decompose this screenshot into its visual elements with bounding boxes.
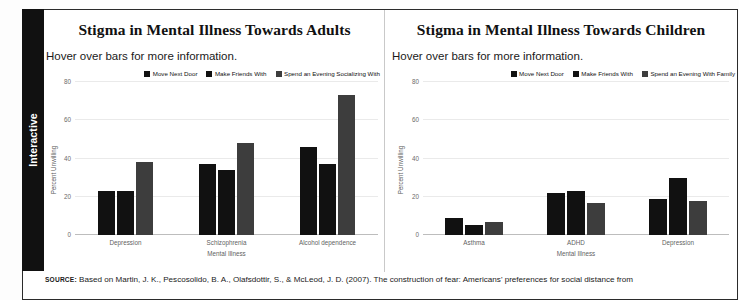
legend-children: Move Next DoorMake Friends WithSpend an …: [385, 70, 737, 77]
legend-label: Make Friends With: [581, 70, 633, 77]
page-title-adults: Stigma in Mental Illness Towards Adults: [45, 21, 384, 39]
y-axis-label-adults: Percent Unwilling: [50, 145, 57, 194]
legend-item[interactable]: Spend an Evening Socializing With: [276, 70, 380, 77]
bar-group: Asthma: [445, 82, 503, 235]
legend-swatch-icon: [144, 71, 150, 77]
legend-swatch-icon: [642, 71, 648, 77]
bar-group: Depression: [98, 82, 153, 235]
y-axis-tick: 20: [412, 192, 419, 199]
bar[interactable]: [319, 164, 336, 235]
x-axis-tick: Depression: [662, 239, 694, 246]
chart-subtitle-adults: Hover over bars for more information.: [45, 50, 384, 62]
legend-swatch-icon: [511, 71, 517, 77]
source-citation: SOURCE: Based on Martin, J. K., Pescosol…: [45, 275, 735, 285]
bar[interactable]: [669, 178, 687, 235]
x-axis-tick: Asthma: [463, 239, 484, 246]
bar[interactable]: [117, 191, 134, 235]
legend-item[interactable]: Make Friends With: [573, 70, 633, 77]
chart-subtitle-children: Hover over bars for more information.: [385, 50, 737, 62]
bar-group: Schizophrenia: [199, 82, 254, 235]
legend-item[interactable]: Spend an Evening With Family: [642, 70, 735, 77]
source-label: SOURCE:: [45, 276, 77, 283]
bar[interactable]: [338, 95, 355, 235]
plot-area-children: Percent Unwilling 020406080AsthmaADHDDep…: [385, 82, 737, 257]
bar[interactable]: [98, 191, 115, 235]
bar[interactable]: [689, 201, 707, 235]
bar-groups: DepressionSchizophreniaAlcohol dependenc…: [75, 82, 378, 235]
screenshot-root: Interactive Stigma in Mental Illness Tow…: [0, 0, 739, 300]
bar[interactable]: [199, 164, 216, 235]
source-text: Based on Martin, J. K., Pescosolido, B. …: [77, 275, 633, 284]
y-axis-tick: 80: [412, 78, 419, 85]
bar[interactable]: [587, 203, 605, 236]
legend-adults: Move Next DoorMake Friends WithSpend an …: [45, 70, 384, 77]
bar-group: Alcohol dependence: [300, 82, 355, 235]
y-axis-tick: 60: [64, 116, 71, 123]
legend-item[interactable]: Make Friends With: [206, 70, 266, 77]
y-axis-tick: 0: [67, 231, 71, 238]
x-axis-tick: Alcohol dependence: [299, 239, 356, 246]
plot-area-adults: Percent Unwilling 020406080DepressionSch…: [45, 82, 384, 257]
plot-adults: 020406080DepressionSchizophreniaAlcohol …: [75, 82, 378, 235]
bar[interactable]: [218, 170, 235, 235]
page-title-children: Stigma in Mental Illness Towards Childre…: [385, 21, 737, 39]
legend-label: Make Friends With: [215, 70, 267, 77]
plot-children: 020406080AsthmaADHDDepression: [423, 82, 729, 235]
x-axis-tick: Depression: [110, 239, 142, 246]
legend-item[interactable]: Move Next Door: [511, 70, 564, 77]
legend-label: Move Next Door: [519, 70, 564, 77]
y-axis-tick: 80: [64, 78, 71, 85]
bar[interactable]: [485, 222, 503, 235]
x-axis-tick: Schizophrenia: [207, 239, 247, 246]
x-axis-label-children: Mental Illness: [423, 250, 729, 257]
charts-container: Stigma in Mental Illness Towards Adults …: [45, 10, 737, 272]
legend-swatch-icon: [206, 71, 212, 77]
y-axis-label-children: Percent Unwilling: [397, 145, 404, 194]
bar[interactable]: [136, 162, 153, 235]
x-axis-tick: ADHD: [567, 239, 585, 246]
bar-groups: AsthmaADHDDepression: [423, 82, 729, 235]
y-axis-tick: 0: [415, 231, 419, 238]
legend-label: Move Next Door: [153, 70, 198, 77]
x-axis-label-adults: Mental Illness: [75, 250, 378, 257]
legend-item[interactable]: Move Next Door: [144, 70, 197, 77]
bar[interactable]: [567, 191, 585, 235]
bar[interactable]: [300, 147, 317, 235]
y-axis-tick: 20: [64, 192, 71, 199]
side-tab-label: Interactive: [27, 113, 39, 167]
bar-group: Depression: [649, 82, 707, 235]
y-axis-tick: 40: [412, 154, 419, 161]
bar[interactable]: [445, 218, 463, 235]
bar[interactable]: [547, 193, 565, 235]
legend-label: Spend an Evening With Family: [650, 70, 735, 77]
bar[interactable]: [649, 199, 667, 235]
bar[interactable]: [237, 143, 254, 235]
y-axis-tick: 60: [412, 116, 419, 123]
y-axis-tick: 40: [64, 154, 71, 161]
legend-label: Spend an Evening Socializing With: [284, 70, 380, 77]
chart-panel-children: Stigma in Mental Illness Towards Childre…: [384, 10, 737, 272]
bar-group: ADHD: [547, 82, 605, 235]
bar[interactable]: [465, 225, 483, 235]
legend-swatch-icon: [573, 71, 579, 77]
chart-panel-adults: Stigma in Mental Illness Towards Adults …: [45, 10, 384, 272]
legend-swatch-icon: [276, 71, 282, 77]
interactive-side-tab[interactable]: Interactive: [22, 9, 44, 271]
